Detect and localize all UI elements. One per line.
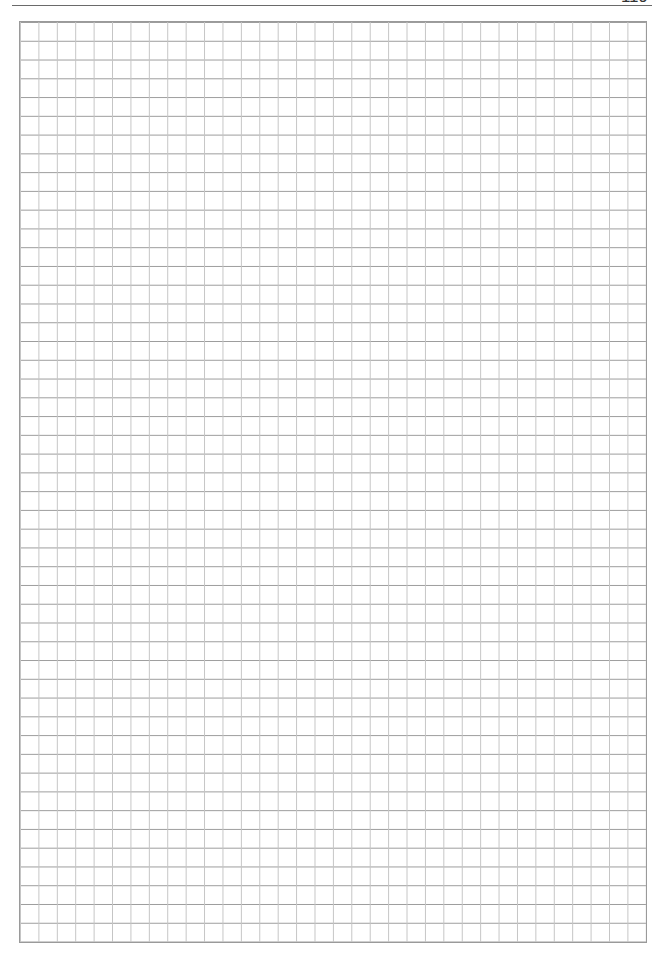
page-number: 119: [621, 0, 648, 5]
graph-paper-grid: [19, 21, 647, 943]
header-rule: [12, 5, 652, 6]
